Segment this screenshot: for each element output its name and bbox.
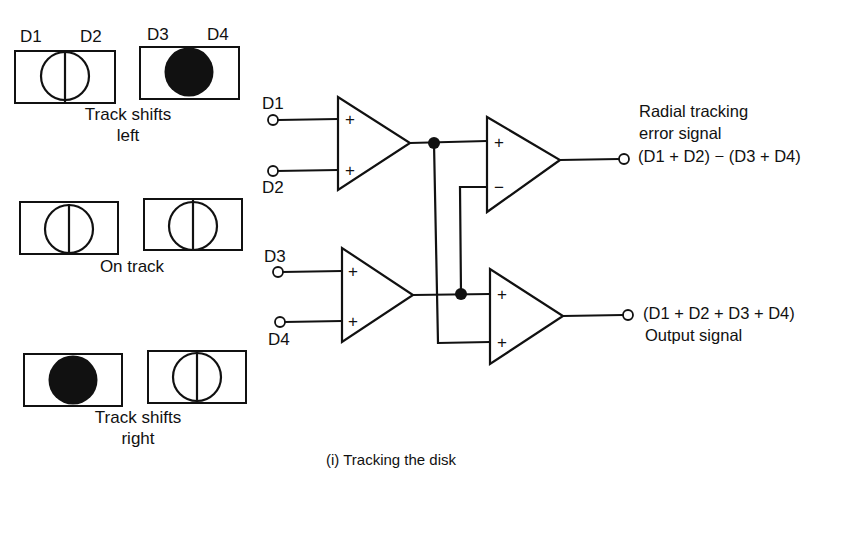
input-plus-sign: +: [497, 285, 507, 304]
amplifier-sum-d3-d4: + +: [342, 248, 413, 342]
opamp-triangle-icon: [487, 117, 560, 212]
wire-node2-to-amp2: [460, 187, 487, 294]
wire-d3: [282, 271, 342, 272]
wire-d4: [284, 321, 342, 322]
label-d2: D2: [80, 27, 102, 46]
input-plus-sign: +: [497, 333, 507, 352]
filled-spot-icon: [165, 48, 214, 97]
label-d4: D4: [207, 25, 229, 44]
input-terminal-d3: [273, 267, 283, 277]
input-label-d2: D2: [262, 178, 284, 197]
input-plus-sign: +: [348, 262, 358, 281]
input-plus-sign: +: [345, 110, 355, 129]
input-minus-sign: −: [494, 178, 504, 197]
state-label-line2: right: [121, 429, 154, 448]
wire-error-out: [560, 159, 619, 160]
state-label-line2: left: [117, 126, 140, 145]
detector-state-track-shifts-right: Track shifts right: [24, 351, 246, 448]
wire-amp1-out: [410, 141, 487, 143]
label-d3: D3: [147, 25, 169, 44]
state-label: Track shifts: [95, 408, 181, 427]
output-terminal-sum: [623, 310, 633, 320]
detector-state-on-track: On track: [20, 199, 242, 276]
figure-caption: (i) Tracking the disk: [326, 451, 457, 468]
amplifier-sum-d1-d2: + +: [338, 97, 410, 190]
wire-node1-to-amp4: [434, 143, 490, 343]
input-label-d4: D4: [268, 330, 290, 349]
error-signal-formula: (D1 + D2) − (D3 + D4): [638, 147, 801, 165]
input-terminal-d1: [268, 115, 278, 125]
output-signal-title: Output signal: [645, 326, 742, 344]
input-terminal-d4: [275, 317, 285, 327]
wire-d1: [278, 119, 338, 120]
input-terminal-d2: [268, 166, 278, 176]
amplifier-difference: + −: [487, 117, 560, 212]
output-signal-formula: (D1 + D2 + D3 + D4): [643, 304, 795, 322]
wire-sum-out: [563, 315, 623, 316]
label-d1: D1: [20, 27, 42, 46]
junction-dot: [455, 288, 467, 300]
error-signal-title: Radial tracking: [639, 102, 748, 120]
state-label: Track shifts: [85, 105, 171, 124]
input-label-d1: D1: [262, 94, 284, 113]
state-label: On track: [100, 257, 165, 276]
wire-d2: [276, 170, 338, 171]
input-label-d3: D3: [264, 247, 286, 266]
error-signal-subtitle: error signal: [639, 124, 722, 142]
detector-state-track-shifts-left: D1 D2 D3 D4 Track shifts left: [15, 25, 239, 145]
junction-dot: [428, 137, 440, 149]
filled-spot-icon: [49, 356, 98, 405]
tracking-diagram: D1 D2 D3 D4 Track shifts left On track T…: [0, 0, 850, 549]
amplifier-total-sum: + +: [490, 269, 563, 364]
input-plus-sign: +: [494, 133, 504, 152]
input-plus-sign: +: [348, 312, 358, 331]
input-plus-sign: +: [345, 161, 355, 180]
output-terminal-error: [619, 154, 629, 164]
wire-amp3-out: [413, 294, 490, 295]
